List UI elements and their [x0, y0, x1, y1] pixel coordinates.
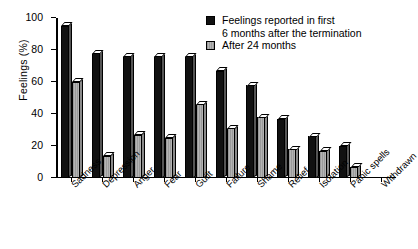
bar-front-face [196, 104, 204, 178]
legend-item-series-2: After 24 months [206, 39, 362, 51]
bar-front-face [216, 71, 224, 178]
bar-group [149, 18, 180, 178]
bar-front-face [185, 56, 193, 178]
y-axis-title: Feelings (%) [17, 25, 29, 115]
bar-series-2 [196, 104, 204, 178]
y-tick-label: 80 [31, 43, 43, 55]
bar-front-face [72, 82, 80, 178]
chart-legend: Feelings reported in first 6 months afte… [206, 14, 362, 53]
bar-front-face [227, 128, 235, 178]
bar-series-2 [72, 82, 80, 178]
bar-front-face [61, 26, 69, 178]
bar-front-face [257, 117, 265, 178]
bar-series-1 [216, 71, 224, 178]
bar-side-face [204, 102, 207, 177]
y-tick-label: 40 [31, 107, 43, 119]
y-tick-label: 100 [25, 11, 43, 23]
y-tick-label: 20 [31, 139, 43, 151]
bar-front-face [154, 56, 162, 178]
legend-label-series-1-line-2: 6 months after the termination [222, 27, 362, 39]
legend-item-series-1: Feelings reported in first [206, 14, 362, 26]
x-axis-category-labels: SadnessDepressionAngerFearGuiltFailureSh… [56, 182, 396, 248]
bar-series-2 [227, 128, 235, 178]
bar-group [87, 18, 118, 178]
y-tick-label: 0 [37, 171, 43, 183]
bar-series-1 [154, 56, 162, 178]
bar-series-1 [185, 56, 193, 178]
legend-label-series-2: After 24 months [222, 39, 296, 51]
bar-series-1 [61, 26, 69, 178]
legend-swatch-icon-series-2 [206, 41, 215, 50]
bar-side-face [80, 79, 83, 177]
legend-label-series-1-line-1: Feelings reported in first [222, 14, 335, 26]
y-tick-label: 60 [31, 75, 43, 87]
bar-group [56, 18, 87, 178]
legend-label-series-1-line-2-wrap: 6 months after the termination [206, 27, 362, 39]
legend-swatch-icon-series-1 [206, 16, 215, 25]
bar-series-2 [257, 117, 265, 178]
